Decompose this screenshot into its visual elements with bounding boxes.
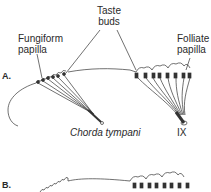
folliate-papilla-label: Folliate papilla [177,33,209,55]
leader-taste-buds-left [66,30,100,73]
leader-fungiform [37,54,42,78]
taste-buds-label-line2: buds [92,16,126,27]
taste-innervation-diagram [0,0,211,192]
folliate-label-line1: Folliate [177,33,209,44]
fungiform-label-line2: papilla [18,44,63,55]
tongue-surface-a [68,69,136,72]
taste-buds-label: Taste buds [92,5,126,27]
leader-taste-buds-right [117,30,136,70]
chorda-tympani-fibres [38,75,104,125]
panel-a-label: A. [2,71,11,82]
chorda-tympani-label: Chorda tympani [70,127,141,138]
leader-folliate [186,58,190,70]
fungiform-papillae-b [40,177,68,192]
foliate-papillae-a [135,63,191,78]
taste-buds-label-line1: Taste [92,5,126,16]
glossopharyngeal-fibres [138,78,190,125]
fungiform-papilla-label: Fungiform papilla [18,33,63,55]
tongue-tip-a [8,83,36,126]
folliate-label-line2: papilla [177,44,209,55]
panel-b-label: B. [2,180,11,191]
tongue-surface-b [68,179,130,181]
fungiform-label-line1: Fungiform [18,33,63,44]
foliate-papillae-b [130,172,189,188]
nerve-ix-label: IX [177,127,186,138]
